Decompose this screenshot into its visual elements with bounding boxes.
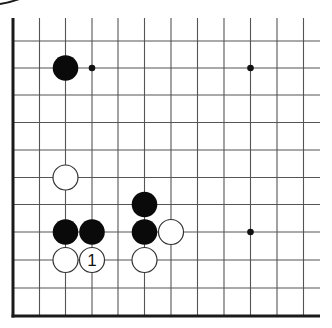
star-point-icon [247, 65, 254, 72]
white-stone [132, 248, 157, 273]
black-stone [53, 219, 79, 245]
white-stone [53, 165, 78, 190]
black-stone [79, 219, 105, 245]
black-stone [132, 192, 158, 218]
white-stone [159, 220, 184, 245]
star-point-icon [89, 65, 96, 72]
move-number-label: 1 [87, 251, 96, 270]
go-board: 1 [0, 0, 332, 328]
white-stone [53, 248, 78, 273]
black-stone [53, 55, 79, 81]
white-stone: 1 [80, 248, 105, 273]
star-point-icon [247, 229, 254, 236]
black-stone [132, 219, 158, 245]
corner-arc-decoration [0, 0, 22, 4]
